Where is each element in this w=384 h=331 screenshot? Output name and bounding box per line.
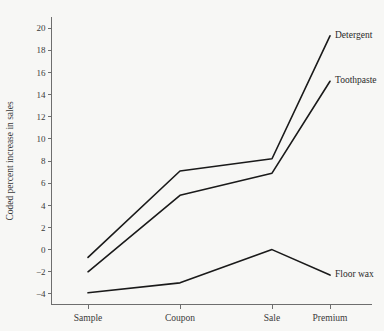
y-tick-label: 8 [41,156,46,166]
y-tick-label: −2 [36,267,46,277]
chart-canvas: −4−202468101214161820 Coded percent incr… [0,0,384,331]
y-tick-label: 2 [41,223,46,233]
y-tick-label: −4 [36,289,46,299]
y-tick-label: 20 [37,23,47,33]
y-tick-label: 14 [37,90,47,100]
y-tick-label: 10 [37,134,47,144]
x-tick-label-premium: Premium [313,313,348,323]
series-label-detergent: Detergent [335,30,373,40]
line-chart: −4−202468101214161820 Coded percent incr… [0,0,384,331]
y-axis-title: Coded percent increase in sales [5,101,15,221]
chart-background [0,0,384,331]
series-label-toothpaste: Toothpaste [335,75,377,85]
y-tick-label: 18 [37,45,47,55]
y-tick-label: 16 [37,68,47,78]
y-tick-label: 0 [41,245,46,255]
y-tick-label: 12 [37,112,46,122]
x-tick-label-coupon: Coupon [165,313,195,323]
series-label-floor-wax: Floor wax [335,269,374,279]
x-tick-label-sale: Sale [264,313,280,323]
x-tick-label-sample: Sample [74,313,103,323]
y-tick-label: 4 [41,201,46,211]
y-tick-label: 6 [41,178,46,188]
